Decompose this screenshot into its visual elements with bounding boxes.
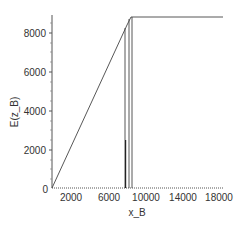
y-axis-label: E(z_B) xyxy=(9,97,20,128)
diagonal-line xyxy=(52,17,223,188)
x-tick-label: 6000 xyxy=(98,192,121,203)
data-series xyxy=(52,17,223,188)
y-tick-label: 6000 xyxy=(24,67,47,78)
x-tick-label: 10000 xyxy=(132,192,160,203)
y-tick-label: 4000 xyxy=(24,106,47,117)
y-tick-label: 2000 xyxy=(24,145,47,156)
y-tick-label: 8000 xyxy=(24,28,47,39)
y-tick-label: 0 xyxy=(42,184,48,195)
x-tick-label: 14000 xyxy=(169,192,197,203)
x-axis-label: x_B xyxy=(128,207,146,218)
chart: 8000 6000 4000 2000 0 2000 6000 10000 14… xyxy=(0,0,235,225)
x-tick-label: 2000 xyxy=(60,192,83,203)
x-tick-label: 18000 xyxy=(205,192,233,203)
